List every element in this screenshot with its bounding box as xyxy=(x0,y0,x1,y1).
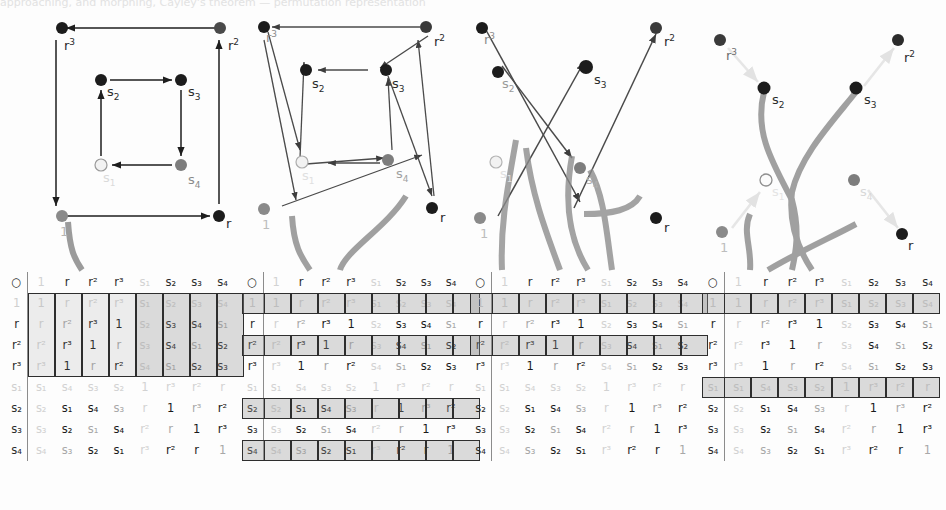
table-row: r²r²r³1rs₃s₄s₁s₂ xyxy=(470,335,696,356)
table-cell: s₄ xyxy=(289,377,314,398)
row-header-s₂: s₂ xyxy=(470,398,491,419)
table-cell: s₃ xyxy=(210,356,236,377)
table-cell: r² xyxy=(339,356,364,377)
table-cell: s₄ xyxy=(594,356,619,377)
table-cell: s₄ xyxy=(389,335,414,356)
corner-operator-icon: ○ xyxy=(470,272,491,293)
column-header-r²: r² xyxy=(779,272,806,293)
table-cell: r² xyxy=(887,377,914,398)
row-header-s₃: s₃ xyxy=(6,419,28,440)
table-cell: r² xyxy=(543,293,568,314)
table-cell: r² xyxy=(389,440,414,461)
panel-4-table: ○1rr²r³s₁s₂s₃s₄11rr²r³s₁s₂s₃s₄rrr²r³1s₂s… xyxy=(696,272,946,510)
table-cell: s₁ xyxy=(389,356,414,377)
table-cell: s₂ xyxy=(752,419,779,440)
svg-text:r: r xyxy=(908,238,914,253)
table-cell: s₁ xyxy=(210,314,236,335)
table-row: s₃s₃s₂s₁s₄r²r1r³ xyxy=(242,419,464,440)
table-cell: r xyxy=(438,377,463,398)
table-cell: s₄ xyxy=(914,293,941,314)
column-header-r³: r³ xyxy=(339,272,364,293)
table-cell: r xyxy=(28,314,54,335)
column-header-r: r xyxy=(517,272,542,293)
table-row: rrr²r³1s₂s₃s₄s₁ xyxy=(702,314,941,335)
table-cell: r³ xyxy=(289,335,314,356)
table-cell: s₁ xyxy=(779,419,806,440)
table-cell: r xyxy=(543,356,568,377)
table-cell: s₂ xyxy=(491,398,517,419)
table-cell: 1 xyxy=(833,377,860,398)
table-cell: r³ xyxy=(106,293,132,314)
table-cell: r² xyxy=(491,335,517,356)
table-row: s₂s₂s₁s₄s₃r1r³r² xyxy=(470,398,696,419)
table-cell: 1 xyxy=(289,356,314,377)
panel-3: r3 r2 s2 s3 s1 s4 1 r ○1rr²r³s₁s₂s₃s₄11r… xyxy=(464,0,696,510)
table-cell: s₁ xyxy=(263,377,288,398)
svg-text:s4: s4 xyxy=(860,184,873,202)
table-cell: s₃ xyxy=(414,293,439,314)
table-cell: r xyxy=(314,356,339,377)
svg-text:s4: s4 xyxy=(586,172,599,190)
table-row: r³r³1rr²s₄s₁s₂s₃ xyxy=(702,356,941,377)
svg-text:1: 1 xyxy=(262,217,270,232)
table-cell: r xyxy=(80,356,106,377)
table-cell: s₄ xyxy=(132,356,158,377)
svg-text:1: 1 xyxy=(60,224,68,239)
table-cell: r² xyxy=(106,356,132,377)
table-cell: s₁ xyxy=(517,398,542,419)
svg-text:s3: s3 xyxy=(594,72,607,90)
table-cell: r³ xyxy=(414,398,439,419)
table-cell: s₃ xyxy=(619,314,644,335)
table-cell: 1 xyxy=(594,377,619,398)
column-header-s₃: s₃ xyxy=(645,272,670,293)
table-cell: 1 xyxy=(364,377,389,398)
table-cell: s₃ xyxy=(364,335,389,356)
table-cell: s₄ xyxy=(158,335,184,356)
table-cell: r² xyxy=(517,314,542,335)
table-cell: 1 xyxy=(106,314,132,335)
table-cell: s₁ xyxy=(568,440,593,461)
panel-1: r3 r2 s2 s3 s1 s4 1 r ○1rr²r³s₁s₂s₃s₄11r… xyxy=(0,0,236,510)
table-cell: r³ xyxy=(619,377,644,398)
panel-2-table: ○1rr²r³s₁s₂s₃s₄11rr²r³s₁s₂s₃s₄rrr²r³1s₂s… xyxy=(236,272,464,510)
table-cell: r xyxy=(517,293,542,314)
table-row: s₄s₄s₃s₂s₁r³r²r1 xyxy=(242,440,464,461)
table-cell: s₁ xyxy=(28,377,54,398)
table-row: r³r³1rr²s₄s₁s₂s₃ xyxy=(6,356,236,377)
table-cell: r xyxy=(568,335,593,356)
table-header-row: ○1rr²r³s₁s₂s₃s₄ xyxy=(470,272,696,293)
table-cell: r xyxy=(54,293,80,314)
table-cell: s₁ xyxy=(860,356,887,377)
svg-text:r3: r3 xyxy=(64,37,75,53)
table-cell: s₂ xyxy=(833,314,860,335)
table-cell: s₁ xyxy=(158,356,184,377)
column-header-r: r xyxy=(54,272,80,293)
table-cell: s₄ xyxy=(806,419,833,440)
column-header-r: r xyxy=(289,272,314,293)
table-cell: s₃ xyxy=(132,335,158,356)
table-cell: r xyxy=(389,419,414,440)
table-cell: r³ xyxy=(645,398,670,419)
table-cell: r xyxy=(806,335,833,356)
panel-4-graph: r3 r2 s2 s3 s1 s4 1 r xyxy=(696,0,946,270)
table-cell: s₃ xyxy=(833,335,860,356)
table-cell: s₃ xyxy=(543,377,568,398)
svg-text:r2: r2 xyxy=(434,33,445,49)
graph-nodes xyxy=(56,22,226,222)
table-cell: s₁ xyxy=(645,335,670,356)
table-cell: s₄ xyxy=(887,314,914,335)
table-cell: r² xyxy=(28,335,54,356)
table-cell: s₄ xyxy=(414,314,439,335)
row-header-r: r xyxy=(242,314,263,335)
table-header-row: ○1rr²r³s₁s₂s₃s₄ xyxy=(6,272,236,293)
table-cell: s₁ xyxy=(106,440,132,461)
table-cell: r³ xyxy=(389,377,414,398)
table-cell: s₃ xyxy=(860,314,887,335)
table-cell: s₄ xyxy=(438,293,463,314)
table-cell: r³ xyxy=(779,314,806,335)
table-cell: s₁ xyxy=(314,419,339,440)
table-cell: r² xyxy=(752,314,779,335)
table-row: s₂s₂s₁s₄s₃r1r³r² xyxy=(702,398,941,419)
table-cell: s₂ xyxy=(414,356,439,377)
table-cell: r² xyxy=(132,419,158,440)
